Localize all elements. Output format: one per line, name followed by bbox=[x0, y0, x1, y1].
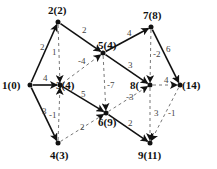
edge-weight-label: 4 bbox=[127, 28, 132, 38]
node-5-label: 5(4) bbox=[98, 39, 117, 52]
node-6-marker bbox=[104, 111, 109, 116]
edge-weight-label: 4 bbox=[164, 75, 169, 85]
edge-5-6 bbox=[103, 56, 106, 110]
edge-weight-label: -2 bbox=[153, 49, 161, 59]
edge-weight-label: 2 bbox=[128, 118, 133, 128]
node-9-marker bbox=[148, 141, 153, 146]
edge-4-3 bbox=[58, 88, 60, 140]
edge-weight-label: -7 bbox=[107, 80, 115, 90]
node-7-label: 7(8) bbox=[143, 9, 162, 22]
node-8-label: 8( bbox=[130, 79, 140, 92]
node-1-label: 1(0) bbox=[2, 79, 21, 92]
node-4-label: 4(3) bbox=[50, 149, 69, 162]
node-8-marker bbox=[148, 83, 153, 88]
edge-weight-label: 3 bbox=[128, 60, 133, 70]
graph-canvas: 24312-4-15243-7-26-3432-11(0)2(2)3(4)4(3… bbox=[0, 0, 217, 169]
node-4-marker bbox=[56, 141, 61, 146]
edge-weight-label: -1 bbox=[168, 108, 176, 118]
edge-weight-label: 3 bbox=[154, 108, 159, 118]
edge-2-5 bbox=[60, 24, 100, 52]
node-5-marker bbox=[101, 51, 106, 56]
edge-weight-label: 3 bbox=[42, 106, 47, 116]
node-9-label: 9(11) bbox=[138, 149, 162, 162]
edge-2-3 bbox=[58, 25, 60, 82]
edge-weight-label: 2 bbox=[40, 42, 45, 52]
edge-weight-label: 6 bbox=[166, 44, 171, 54]
node-2-marker bbox=[56, 20, 61, 25]
edge-weight-label: 2 bbox=[82, 25, 87, 35]
graph-diagram: 24312-4-15243-7-26-3432-11(0)2(2)3(4)4(3… bbox=[0, 0, 217, 169]
edge-weight-label: -1 bbox=[49, 110, 57, 120]
edge-7-8 bbox=[150, 30, 151, 82]
edge-weight-label: 1 bbox=[52, 47, 57, 57]
node-3-label: 3(4) bbox=[56, 79, 75, 92]
edge-weight-label: 4 bbox=[43, 73, 48, 83]
edge-weight-label: 5 bbox=[81, 89, 86, 99]
edge-weight-label: -3 bbox=[126, 92, 134, 102]
edge-weight-label: -4 bbox=[78, 56, 86, 66]
node-6-label: 6(9) bbox=[98, 116, 117, 129]
node-1-marker bbox=[28, 83, 33, 88]
edge-weight-label: 2 bbox=[80, 122, 85, 132]
node-10-label: (14) bbox=[182, 79, 201, 92]
node-2-label: 2(2) bbox=[48, 4, 67, 17]
node-7-marker bbox=[149, 25, 154, 30]
labels-layer: 24312-4-15243-7-26-3432-11(0)2(2)3(4)4(3… bbox=[2, 4, 201, 162]
